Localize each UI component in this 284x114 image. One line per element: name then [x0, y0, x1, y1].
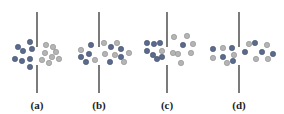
dark-point [78, 54, 83, 59]
panel-label-d: (d) [232, 99, 245, 111]
dark-point [118, 54, 123, 59]
light-point [170, 50, 175, 55]
light-point [126, 50, 131, 55]
dark-point [27, 39, 32, 44]
dark-point [242, 49, 247, 54]
dark-point [157, 40, 162, 45]
light-point [56, 56, 61, 61]
dark-point [151, 41, 156, 46]
light-point [121, 59, 126, 64]
figure-canvas [0, 0, 284, 114]
light-point [159, 48, 164, 53]
dark-point [19, 58, 24, 63]
light-point [112, 52, 117, 57]
light-point [188, 50, 193, 55]
light-point [92, 57, 97, 62]
light-point [42, 50, 47, 55]
light-point [43, 42, 48, 47]
dark-point [210, 46, 215, 51]
dark-point [108, 44, 113, 49]
panel-label-c: (c) [161, 99, 173, 111]
light-point [102, 51, 107, 56]
light-point [178, 60, 183, 65]
light-point [265, 56, 270, 61]
dark-point [252, 40, 257, 45]
panel-c [144, 12, 195, 93]
panel-label-a: (a) [31, 99, 44, 111]
dark-point [27, 56, 32, 61]
light-point [264, 42, 269, 47]
dark-point [29, 46, 34, 51]
dark-point [88, 42, 93, 47]
light-point [224, 60, 229, 65]
dark-point [27, 64, 32, 69]
light-point [246, 41, 251, 46]
dark-point [83, 59, 88, 64]
light-point [171, 34, 176, 39]
light-point [184, 33, 189, 38]
panel-a [12, 12, 61, 93]
dark-point [12, 56, 17, 61]
light-point [175, 51, 180, 56]
dark-point [180, 42, 185, 47]
dark-point [220, 54, 225, 59]
panel-d [210, 12, 275, 93]
dark-point [86, 51, 91, 56]
panel-label-b: (b) [92, 99, 105, 111]
dark-point [154, 56, 159, 61]
panel-b [78, 12, 131, 93]
dark-point [259, 49, 264, 54]
light-point [101, 40, 106, 45]
light-point [78, 47, 83, 52]
light-point [49, 54, 54, 59]
dark-point [230, 58, 235, 63]
dark-point [144, 40, 149, 45]
dark-point [229, 45, 234, 50]
light-point [114, 40, 119, 45]
light-point [253, 56, 258, 61]
dark-point [270, 51, 275, 56]
dark-point [118, 46, 123, 51]
light-point [50, 44, 55, 49]
dark-point [107, 59, 112, 64]
light-point [53, 49, 58, 54]
light-point [190, 41, 195, 46]
dark-point [20, 48, 25, 53]
light-point [231, 52, 236, 57]
dark-point [159, 54, 164, 59]
light-point [46, 60, 51, 65]
dark-point [15, 44, 20, 49]
dark-point [144, 48, 149, 53]
light-point [210, 55, 215, 60]
dark-point [150, 52, 155, 57]
light-point [220, 45, 225, 50]
light-point [39, 57, 44, 62]
